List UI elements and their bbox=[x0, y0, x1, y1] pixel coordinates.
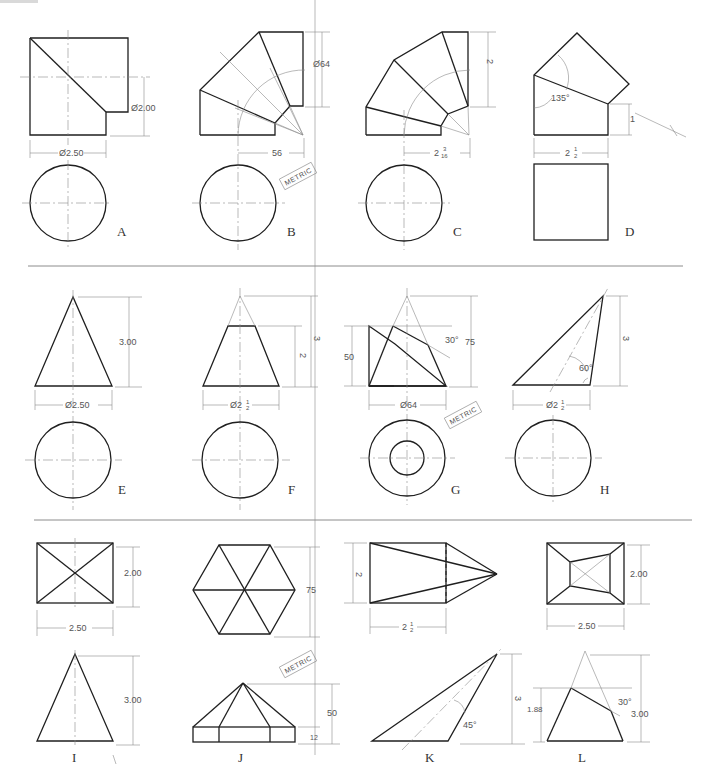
svg-text:B: B bbox=[287, 224, 296, 239]
svg-text:1.88: 1.88 bbox=[527, 705, 543, 714]
svg-text:2: 2 bbox=[298, 353, 308, 358]
metric-badge: METRIC bbox=[279, 162, 316, 189]
svg-text:1: 1 bbox=[574, 146, 578, 152]
svg-text:12: 12 bbox=[310, 734, 318, 741]
svg-text:Ø2.50: Ø2.50 bbox=[59, 148, 84, 158]
svg-text:30°: 30° bbox=[445, 335, 459, 345]
svg-text:K: K bbox=[425, 750, 435, 765]
svg-text:A: A bbox=[117, 224, 127, 239]
svg-text:L: L bbox=[578, 750, 586, 765]
problem-f: 2 3 Ø2 1 2 F bbox=[192, 288, 322, 510]
svg-text:Ø2: Ø2 bbox=[230, 400, 242, 410]
metric-badge: METRIC bbox=[279, 650, 316, 677]
svg-text:3: 3 bbox=[443, 146, 447, 152]
problem-e: 3.00 Ø2.50 E bbox=[25, 290, 142, 510]
svg-text:Ø2.00: Ø2.00 bbox=[131, 103, 156, 113]
svg-text:2: 2 bbox=[354, 572, 364, 577]
svg-text:C: C bbox=[453, 224, 462, 239]
svg-text:3: 3 bbox=[513, 696, 523, 701]
svg-text:56: 56 bbox=[272, 148, 282, 158]
svg-text:135°: 135° bbox=[551, 93, 570, 103]
svg-text:2: 2 bbox=[434, 148, 439, 158]
svg-text:Ø2: Ø2 bbox=[546, 400, 558, 410]
svg-text:G: G bbox=[451, 482, 460, 497]
svg-text:3.00: 3.00 bbox=[119, 337, 137, 347]
problem-d: 135° 1 2 1 2 D bbox=[534, 33, 686, 240]
svg-text:2.00: 2.00 bbox=[124, 568, 142, 578]
drawing-sheet: Ø2.00 Ø2.50 A Ø64 56 METRIC bbox=[0, 0, 711, 780]
problem-j: 75 METRIC 50 12 J bbox=[193, 0, 340, 765]
corner-bar bbox=[0, 0, 38, 3]
svg-text:J: J bbox=[238, 750, 243, 765]
svg-text:2: 2 bbox=[574, 153, 578, 159]
problem-g: 50 75 30° Ø64 METRIC G bbox=[344, 288, 482, 505]
svg-text:E: E bbox=[118, 482, 126, 497]
svg-text:3: 3 bbox=[621, 336, 631, 341]
problem-b: Ø64 56 METRIC B bbox=[192, 32, 330, 250]
problem-h: 60° 3 Ø2 1 2 H bbox=[505, 288, 631, 505]
svg-text:3: 3 bbox=[312, 336, 322, 341]
svg-text:16: 16 bbox=[441, 153, 448, 159]
problem-a: Ø2.00 Ø2.50 A bbox=[20, 30, 156, 250]
svg-text:45°: 45° bbox=[463, 720, 477, 730]
svg-text:3.00: 3.00 bbox=[631, 709, 649, 719]
svg-text:2.50: 2.50 bbox=[578, 621, 596, 631]
metric-badge: METRIC bbox=[444, 401, 481, 428]
svg-text:Ø2.50: Ø2.50 bbox=[65, 400, 90, 410]
svg-text:Ø64: Ø64 bbox=[400, 400, 417, 410]
svg-text:H: H bbox=[600, 482, 609, 497]
svg-text:2.00: 2.00 bbox=[630, 569, 648, 579]
svg-text:2: 2 bbox=[402, 622, 407, 632]
problem-l: 2.00 2.50 1.88 3.00 30° L bbox=[527, 543, 650, 765]
svg-text:75: 75 bbox=[306, 585, 316, 595]
svg-text:60°: 60° bbox=[579, 363, 593, 373]
svg-text:75: 75 bbox=[465, 337, 475, 347]
svg-text:2: 2 bbox=[246, 405, 250, 411]
svg-text:Ø64: Ø64 bbox=[313, 59, 330, 69]
svg-text:2: 2 bbox=[561, 405, 565, 411]
svg-text:1: 1 bbox=[630, 114, 635, 124]
svg-text:50: 50 bbox=[344, 352, 354, 362]
svg-text:30°: 30° bbox=[618, 697, 632, 707]
svg-text:50: 50 bbox=[327, 708, 337, 718]
problem-k: 2 2 1 2 45° 3 K bbox=[344, 543, 525, 765]
svg-text:F: F bbox=[288, 482, 295, 497]
svg-text:3.00: 3.00 bbox=[124, 695, 142, 705]
problem-c: 2 2 3 16 C bbox=[358, 32, 496, 250]
svg-text:2.50: 2.50 bbox=[69, 623, 87, 633]
problem-i: 2.00 2.50 3.00 I bbox=[37, 538, 142, 765]
svg-text:I: I bbox=[72, 750, 76, 765]
svg-text:2: 2 bbox=[410, 627, 414, 633]
svg-text:2: 2 bbox=[485, 59, 495, 64]
svg-text:2: 2 bbox=[565, 148, 570, 158]
svg-text:D: D bbox=[625, 224, 634, 239]
